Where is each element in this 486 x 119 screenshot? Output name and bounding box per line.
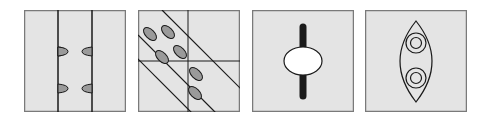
panel-vesica-circles	[365, 10, 467, 112]
vesica-circles-diagram	[365, 10, 467, 112]
panel-diagonal-band	[138, 10, 240, 112]
ellipse-on-bar-diagram	[252, 10, 354, 112]
panel-vertical-strips	[24, 10, 126, 112]
vertical-strips-diagram	[24, 10, 126, 112]
diagonal-band-diagram	[138, 10, 240, 112]
panel-ellipse-on-bar	[252, 10, 354, 112]
